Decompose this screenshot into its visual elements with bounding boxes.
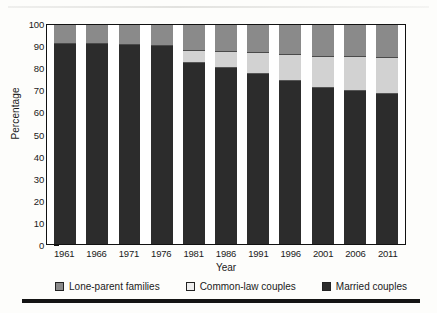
bar-slot-1986 <box>210 25 242 244</box>
stacked-bar-1991[interactable] <box>247 25 269 244</box>
footer-rule <box>22 299 420 303</box>
x-axis-tick-labels: 1961196619711976198119861991199620012006… <box>46 248 406 262</box>
x-tick-1971: 1971 <box>113 248 145 262</box>
x-tick-1986: 1986 <box>210 248 242 262</box>
legend-label-0: Lone-parent families <box>69 281 160 292</box>
y-tickmark-0 <box>54 245 59 246</box>
bar-slot-2006 <box>339 25 371 244</box>
bar-slot-1976 <box>146 25 178 244</box>
bar-series-group <box>47 25 405 244</box>
bar-segment-lone-parent-families-2001 <box>312 25 334 57</box>
bar-segment-common-law-couples-1986 <box>215 52 237 68</box>
bar-segment-common-law-couples-2006 <box>344 57 366 91</box>
bar-segment-married-couples-1991 <box>247 74 269 244</box>
bar-segment-married-couples-2006 <box>344 91 366 244</box>
x-tick-2001: 2001 <box>307 248 339 262</box>
chart-figure: Percentage 0102030405060708090100 196119… <box>0 0 437 313</box>
stacked-bar-1996[interactable] <box>279 25 301 244</box>
bar-segment-common-law-couples-2001 <box>312 57 334 88</box>
bar-slot-1991 <box>242 25 274 244</box>
bar-segment-married-couples-1971 <box>119 45 141 244</box>
x-tick-1981: 1981 <box>177 248 209 262</box>
bar-segment-married-couples-1961 <box>54 44 76 244</box>
common-law-swatch <box>186 282 195 291</box>
bar-segment-married-couples-2001 <box>312 88 334 244</box>
y-tick-90: 90 <box>34 42 44 51</box>
stacked-bar-2011[interactable] <box>376 25 398 244</box>
y-tick-80: 80 <box>34 64 44 73</box>
x-tick-2006: 2006 <box>339 248 371 262</box>
y-axis-tick-labels: 0102030405060708090100 <box>14 24 44 245</box>
y-tick-0: 0 <box>39 241 44 250</box>
stacked-bar-1966[interactable] <box>86 25 108 244</box>
x-tick-1976: 1976 <box>145 248 177 262</box>
y-tick-60: 60 <box>34 108 44 117</box>
bar-segment-married-couples-1981 <box>183 63 205 244</box>
y-tick-100: 100 <box>29 20 44 29</box>
x-tick-1996: 1996 <box>275 248 307 262</box>
y-tick-30: 30 <box>34 174 44 183</box>
y-tick-40: 40 <box>34 152 44 161</box>
stacked-bar-1976[interactable] <box>151 25 173 244</box>
x-tick-1991: 1991 <box>242 248 274 262</box>
scan-artifact-line <box>8 6 429 8</box>
bar-slot-1966 <box>81 25 113 244</box>
bar-segment-lone-parent-families-1971 <box>119 25 141 45</box>
stacked-bar-2001[interactable] <box>312 25 334 244</box>
bar-segment-married-couples-1996 <box>279 81 301 244</box>
bar-slot-1971 <box>113 25 145 244</box>
bar-segment-married-couples-2011 <box>376 94 398 244</box>
y-tick-50: 50 <box>34 130 44 139</box>
bar-slot-1981 <box>178 25 210 244</box>
legend-item-2[interactable]: Married couples <box>322 281 407 292</box>
chart-legend: Lone-parent familiesCommon-law couplesMa… <box>46 281 416 292</box>
y-tick-10: 10 <box>34 218 44 227</box>
bar-segment-married-couples-1966 <box>86 44 108 244</box>
bar-segment-lone-parent-families-1961 <box>54 25 76 44</box>
married-swatch <box>322 282 331 291</box>
bar-segment-lone-parent-families-1996 <box>279 25 301 55</box>
bar-segment-lone-parent-families-1981 <box>183 25 205 51</box>
bar-segment-lone-parent-families-1966 <box>86 25 108 44</box>
plot-area <box>46 24 406 245</box>
x-tick-1966: 1966 <box>80 248 112 262</box>
legend-item-1[interactable]: Common-law couples <box>186 281 296 292</box>
y-tick-70: 70 <box>34 86 44 95</box>
x-tick-2011: 2011 <box>372 248 404 262</box>
bar-segment-common-law-couples-1981 <box>183 51 205 63</box>
stacked-bar-1981[interactable] <box>183 25 205 244</box>
stacked-bar-1971[interactable] <box>119 25 141 244</box>
bar-slot-2001 <box>307 25 339 244</box>
legend-label-2: Married couples <box>336 281 407 292</box>
bar-segment-common-law-couples-1991 <box>247 53 269 74</box>
bar-segment-married-couples-1976 <box>151 46 173 244</box>
legend-item-0[interactable]: Lone-parent families <box>55 281 160 292</box>
stacked-bar-1961[interactable] <box>54 25 76 244</box>
y-tick-20: 20 <box>34 196 44 205</box>
bar-segment-lone-parent-families-2006 <box>344 25 366 57</box>
bar-slot-1996 <box>274 25 306 244</box>
x-tick-1961: 1961 <box>48 248 80 262</box>
bar-segment-lone-parent-families-1986 <box>215 25 237 52</box>
stacked-bar-1986[interactable] <box>215 25 237 244</box>
bar-slot-2011 <box>371 25 403 244</box>
bar-segment-common-law-couples-1996 <box>279 55 301 81</box>
stacked-bar-2006[interactable] <box>344 25 366 244</box>
bar-segment-lone-parent-families-1976 <box>151 25 173 46</box>
bar-segment-common-law-couples-2011 <box>376 58 398 94</box>
bar-segment-married-couples-1986 <box>215 68 237 244</box>
bar-segment-lone-parent-families-2011 <box>376 25 398 58</box>
bar-segment-lone-parent-families-1991 <box>247 25 269 53</box>
x-axis-title: Year <box>46 262 406 273</box>
legend-label-1: Common-law couples <box>200 281 296 292</box>
lone-parent-swatch <box>55 282 64 291</box>
bar-slot-1961 <box>49 25 81 244</box>
